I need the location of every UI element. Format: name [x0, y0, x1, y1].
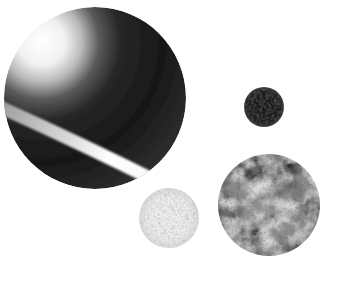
spheres-collage-image [0, 0, 340, 291]
small-dark-sphere [244, 87, 284, 127]
mottled-gray-sphere [218, 154, 320, 256]
light-speckled-sphere [139, 188, 199, 248]
image-canvas [0, 0, 340, 291]
large-sphere-body [4, 7, 186, 189]
